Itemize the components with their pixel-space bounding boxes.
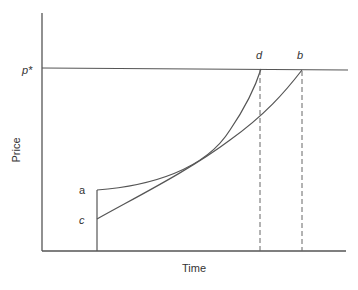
curve-a-to-d <box>97 69 261 190</box>
x-axis-label: Time <box>182 262 206 274</box>
point-c-label: c <box>79 214 85 226</box>
p-star-line <box>42 68 348 70</box>
curve-c-to-b <box>97 70 302 219</box>
point-d-label: d <box>256 49 263 61</box>
point-b-label: b <box>297 49 303 61</box>
point-a-label: a <box>79 184 86 196</box>
p-star-label: p* <box>21 64 33 76</box>
y-axis-label: Price <box>10 137 22 162</box>
diagram-canvas: p* a c d b Time Price <box>0 0 358 290</box>
